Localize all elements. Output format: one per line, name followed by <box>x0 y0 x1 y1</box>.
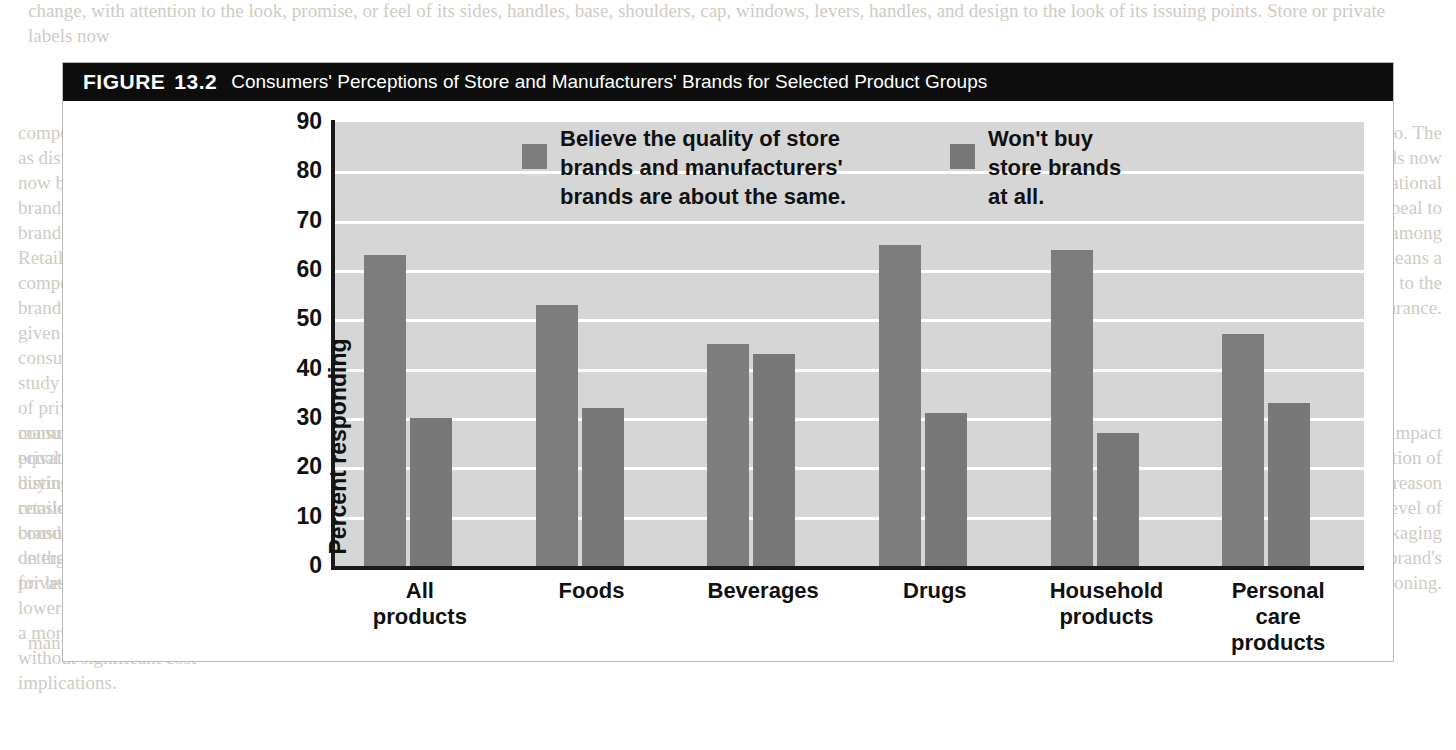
figure-caption: Consumers' Perceptions of Store and Manu… <box>231 71 987 93</box>
bar-2-group-3 <box>753 354 795 566</box>
x-axis-label-4: Drugs <box>835 578 1035 604</box>
gridline-50 <box>334 319 1364 322</box>
gridline-10 <box>334 517 1364 520</box>
y-tick-label-0: 0 <box>270 552 322 579</box>
gridline-60 <box>334 270 1364 273</box>
bar-2-group-4 <box>925 413 967 566</box>
chart-area: 9080706050403020100 Percent responding A… <box>70 108 1386 654</box>
x-axis-label-5: Household products <box>1007 578 1207 630</box>
bleed-text-top: change, with attention to the look, prom… <box>28 0 1428 48</box>
legend-swatch-series-2 <box>950 144 975 169</box>
bar-1-group-3 <box>707 344 749 566</box>
gridline-20 <box>334 467 1364 470</box>
gridline-70 <box>334 221 1364 224</box>
y-axis-title-holder: Percent responding <box>238 228 278 468</box>
bar-1-group-5 <box>1051 250 1093 566</box>
y-tick-label-90: 90 <box>270 108 322 135</box>
x-axis-line <box>331 566 1364 570</box>
bar-1-group-6 <box>1222 334 1264 566</box>
plot-background <box>334 122 1364 566</box>
legend-item-series-1: Believe the quality of store brands and … <box>522 124 846 211</box>
legend-label-series-2: Won't buy store brands at all. <box>988 124 1121 211</box>
x-axis-label-3: Beverages <box>663 578 863 604</box>
figure-number: 13.2 <box>174 70 217 94</box>
x-axis-label-6: Personal care products <box>1178 578 1378 656</box>
bar-2-group-5 <box>1097 433 1139 566</box>
legend-item-series-2: Won't buy store brands at all. <box>950 124 1121 211</box>
bar-2-group-1 <box>410 418 452 566</box>
bar-1-group-4 <box>879 245 921 566</box>
figure-title-bar: FIGURE 13.2 Consumers' Perceptions of St… <box>63 63 1393 101</box>
gridline-30 <box>334 418 1364 421</box>
bar-2-group-6 <box>1268 403 1310 566</box>
figure-label: FIGURE <box>83 70 165 94</box>
y-axis-title: Percent responding <box>325 317 352 577</box>
gridline-40 <box>334 369 1364 372</box>
gridline-80 <box>334 171 1364 174</box>
legend-swatch-series-1 <box>522 144 547 169</box>
bar-1-group-2 <box>536 305 578 566</box>
x-axis-label-1: All products <box>320 578 520 630</box>
x-axis-label-2: Foods <box>492 578 692 604</box>
legend-label-series-1: Believe the quality of store brands and … <box>560 124 846 211</box>
figure-container: FIGURE 13.2 Consumers' Perceptions of St… <box>62 62 1394 662</box>
bar-2-group-2 <box>582 408 624 566</box>
y-tick-label-10: 10 <box>270 503 322 530</box>
bar-1-group-1 <box>364 255 406 566</box>
y-tick-label-80: 80 <box>270 157 322 184</box>
